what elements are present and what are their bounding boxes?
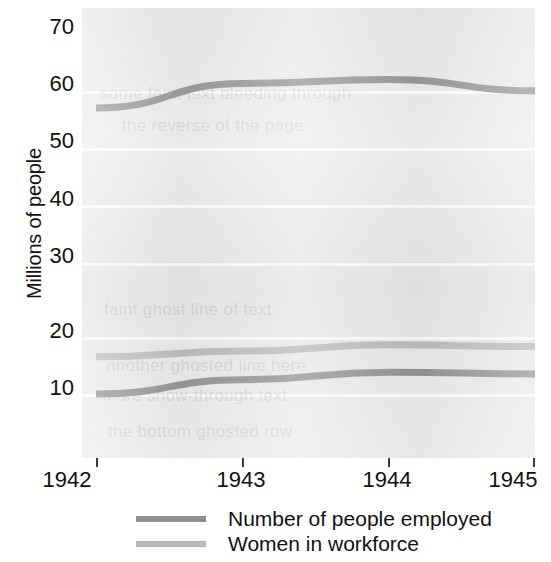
legend-swatch-women — [136, 541, 206, 547]
x-tick-1943: 1943 — [217, 468, 266, 492]
chart-lines — [82, 8, 535, 458]
y-tick-70: 70 — [28, 16, 74, 38]
legend-item-employed: Number of people employed — [136, 506, 536, 531]
y-tick-40: 40 — [28, 188, 74, 210]
x-tickmark-1943 — [242, 458, 244, 467]
y-tick-30: 30 — [28, 245, 74, 267]
y-tick-60: 60 — [28, 73, 74, 95]
x-tick-1942: 1942 — [43, 468, 92, 492]
line-chart-figure: Millions of people 70 60 50 40 30 20 10 … — [0, 0, 551, 562]
x-tick-1944: 1944 — [363, 468, 412, 492]
x-tickmark-1942 — [96, 458, 98, 467]
chart-legend: Number of people employed Women in workf… — [136, 506, 536, 556]
legend-swatch-employed — [136, 516, 206, 522]
x-tickmark-1945 — [533, 458, 535, 467]
x-tick-1945: 1945 — [489, 468, 538, 492]
legend-label-women: Women in workforce — [228, 533, 419, 554]
y-tick-50: 50 — [28, 130, 74, 152]
plot-area: some faint text bleeding through the rev… — [82, 8, 535, 458]
y-tick-10: 10 — [28, 377, 74, 399]
series-line-1 — [96, 345, 535, 357]
y-tick-20: 20 — [28, 320, 74, 342]
legend-item-women: Women in workforce — [136, 531, 536, 556]
legend-label-employed: Number of people employed — [228, 508, 492, 529]
series-line-0 — [96, 79, 535, 108]
series-line-2 — [96, 372, 535, 394]
x-tickmark-1944 — [388, 458, 390, 467]
y-axis-tick-labels: 70 60 50 40 30 20 10 — [28, 0, 74, 462]
